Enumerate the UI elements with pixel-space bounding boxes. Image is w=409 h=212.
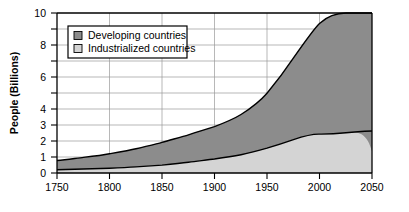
y-tick-label-8: 8 — [40, 39, 46, 51]
y-tick-label-4: 4 — [40, 103, 46, 115]
x-tick-label-1900: 1900 — [203, 181, 227, 193]
y-tick-label-3: 3 — [40, 119, 46, 131]
x-tick-label-1800: 1800 — [98, 181, 122, 193]
x-tick-label-1750: 1750 — [45, 181, 69, 193]
legend-label-industrialized: Industrialized countries — [88, 42, 195, 54]
chart-legend: Developing countries Industrialized coun… — [68, 26, 195, 58]
legend-swatch-developing — [74, 32, 82, 40]
x-tick-label-1850: 1850 — [150, 181, 174, 193]
y-tick-label-1: 1 — [40, 151, 46, 163]
y-tick-label-10: 10 — [34, 7, 46, 19]
population-area-chart: 10 8 6 4 3 2 1 0 1750 1800 1850 1900 195… — [0, 0, 409, 212]
x-tick-label-2000: 2000 — [308, 181, 332, 193]
legend-label-developing: Developing countries — [88, 29, 186, 41]
y-tick-label-0: 0 — [40, 167, 46, 179]
legend-swatch-industrialized — [74, 45, 82, 53]
x-tick-label-2050: 2050 — [360, 181, 384, 193]
x-tick-label-1950: 1950 — [255, 181, 279, 193]
y-tick-label-6: 6 — [40, 71, 46, 83]
y-axis-title: People (Billions) — [8, 52, 20, 134]
y-tick-label-2: 2 — [40, 135, 46, 147]
chart-figure: 10 8 6 4 3 2 1 0 1750 1800 1850 1900 195… — [0, 0, 409, 212]
